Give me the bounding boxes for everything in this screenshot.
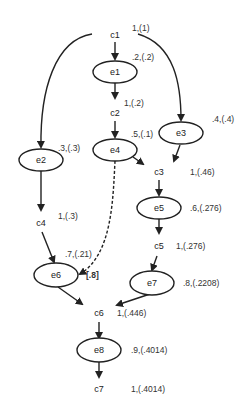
- node-e4-label: e4: [110, 145, 120, 155]
- node-c3-label: c3: [154, 167, 164, 177]
- node-e1-label: e1: [110, 67, 120, 77]
- edge-c5-e7: [152, 256, 157, 270]
- value-e6-weight: [.8]: [86, 270, 99, 280]
- value-e4: .5,(.1): [131, 129, 153, 139]
- node-c6-label: c6: [94, 308, 104, 318]
- diagram-svg: c1 e1 c2 e3 e4 e2 c3 e5 c4 c5 e6 e7 c6 e…: [0, 0, 244, 414]
- value-e8: .9,(.4014): [131, 345, 168, 355]
- event-tree-diagram: c1 e1 c2 e3 e4 e2 c3 e5 c4 c5 e6 e7 c6 e…: [0, 0, 244, 414]
- node-c1-label: c1: [110, 30, 120, 40]
- value-c5: 1,(.276): [176, 241, 205, 251]
- value-c1: 1,(1): [132, 23, 150, 33]
- node-c7-label: c7: [94, 384, 104, 394]
- node-e3-label: e3: [176, 128, 186, 138]
- node-e6-label: e6: [51, 270, 61, 280]
- edge-e7-c6: [117, 294, 150, 305]
- node-e7-label: e7: [147, 278, 157, 288]
- node-c4-label: c4: [36, 218, 46, 228]
- edge-c1-e2: [41, 34, 92, 147]
- edge-c4-e6: [42, 232, 54, 262]
- value-e7: .8,(.2208): [183, 278, 220, 288]
- value-c4: 1,(.3): [58, 211, 78, 221]
- edge-e6-c6: [58, 287, 82, 304]
- value-c2: 1,(.2): [124, 98, 144, 108]
- value-e1: .2,(.2): [132, 52, 154, 62]
- value-e3: .4,(.4): [212, 114, 234, 124]
- node-e5-label: e5: [154, 203, 164, 213]
- value-c6: 1,(.446): [117, 308, 146, 318]
- edge-e3-c3: [174, 145, 180, 161]
- node-c2-label: c2: [110, 108, 120, 118]
- value-e6: .7,(.21): [65, 249, 92, 259]
- value-e2: .3,(.3): [58, 143, 80, 153]
- value-c7: 1,(.4014): [131, 384, 165, 394]
- node-e8-label: e8: [94, 345, 104, 355]
- edge-c1-e3: [138, 34, 181, 120]
- value-c3: 1,(.46): [190, 167, 215, 177]
- value-e5: .6,(.276): [190, 203, 222, 213]
- node-e2-label: e2: [36, 155, 46, 165]
- edge-e4-c3: [133, 157, 143, 164]
- node-c5-label: c5: [154, 241, 164, 251]
